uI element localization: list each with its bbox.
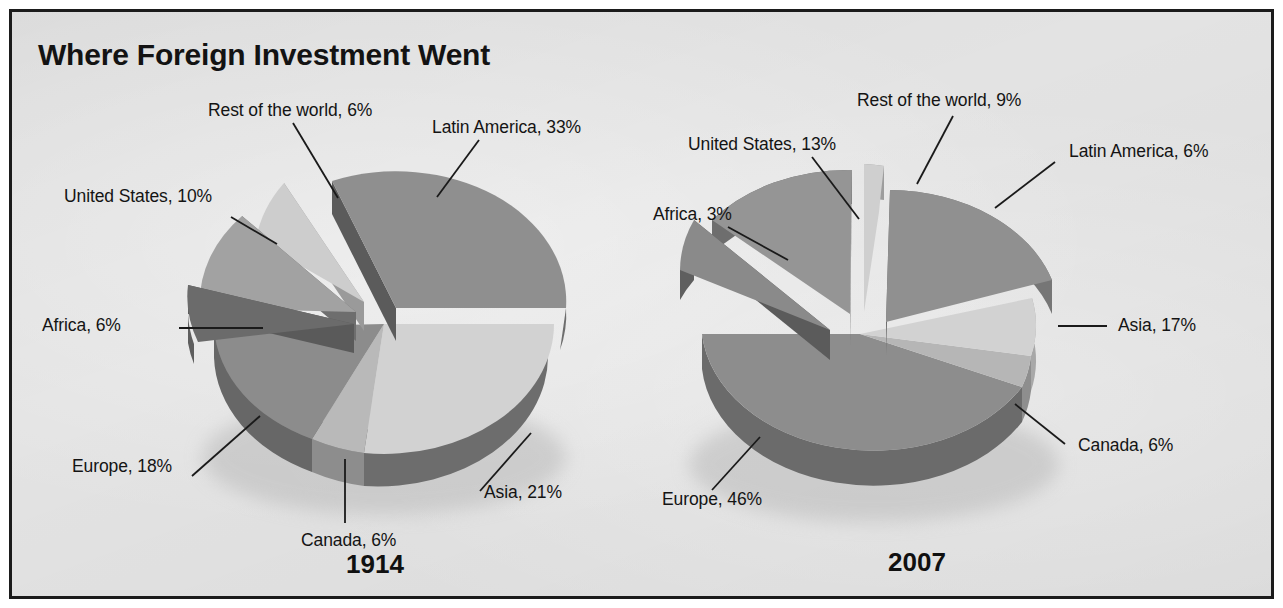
- callout-2007-africa: Africa, 3%: [653, 204, 732, 225]
- slice-latin-america-top: [332, 171, 566, 308]
- leader-latin-america-2007: [995, 162, 1055, 208]
- callout-1914-rest-of-world: Rest of the world, 6%: [208, 100, 372, 121]
- callout-2007-rest-of-world: Rest of the world, 9%: [857, 90, 1021, 111]
- callout-1914-europe: Europe, 18%: [72, 456, 172, 477]
- year-label-1914: 1914: [346, 549, 404, 580]
- page-title: Where Foreign Investment Went: [38, 38, 490, 72]
- callout-1914-africa: Africa, 6%: [42, 315, 121, 336]
- chart-panel: Where Foreign Investment Went: [9, 9, 1274, 599]
- callout-2007-europe: Europe, 46%: [662, 489, 762, 510]
- callout-1914-latin-america: Latin America, 33%: [432, 117, 581, 138]
- year-label-2007: 2007: [888, 547, 946, 578]
- callout-1914-canada: Canada, 6%: [301, 530, 396, 551]
- slice-rest-2007-top: [864, 164, 884, 312]
- callout-2007-united-states: United States, 13%: [688, 134, 836, 155]
- leader-rest-of-world-2007: [917, 116, 953, 184]
- callout-2007-asia: Asia, 17%: [1118, 315, 1196, 336]
- callout-2007-latin-america: Latin America, 6%: [1069, 141, 1208, 162]
- leader-rest-of-world: [293, 123, 338, 198]
- callout-2007-canada: Canada, 6%: [1078, 435, 1173, 456]
- pie-charts-canvas: [12, 12, 1277, 602]
- callout-1914-united-states: United States, 10%: [64, 186, 212, 207]
- pie-2007: [680, 116, 1107, 522]
- callout-1914-asia: Asia, 21%: [484, 482, 562, 503]
- chart-image: Where Foreign Investment Went: [0, 0, 1283, 608]
- pie-1914: [179, 123, 566, 523]
